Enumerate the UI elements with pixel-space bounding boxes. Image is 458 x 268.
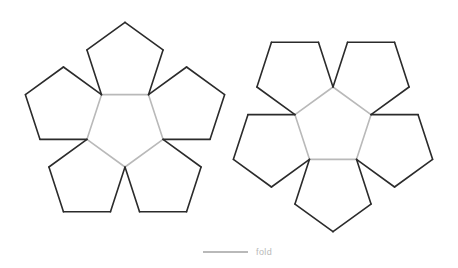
net-canvas: fold	[0, 0, 458, 268]
dodecahedron-net-figure: fold	[0, 0, 458, 268]
legend: fold	[203, 247, 272, 257]
legend-fold-label: fold	[256, 247, 272, 257]
pentagon-faces-layer	[25, 22, 432, 231]
